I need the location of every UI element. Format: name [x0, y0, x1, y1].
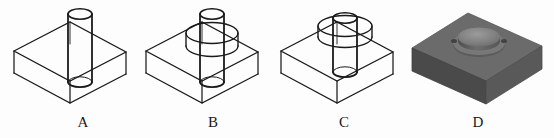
figure-a-label: A	[63, 114, 103, 131]
block-a-wireframe	[14, 22, 126, 103]
figure-a-drawing	[8, 0, 148, 115]
figure-b-label: B	[193, 114, 233, 131]
cylinder-c	[333, 13, 357, 77]
block-b-wireframe	[146, 22, 258, 103]
collar-c	[318, 16, 372, 48]
figure-panel: A	[0, 0, 554, 138]
figure-d-label: D	[458, 114, 498, 131]
block-d-solid	[412, 13, 542, 104]
figure-d-drawing	[408, 0, 554, 115]
figure-c-drawing	[275, 0, 415, 115]
figure-c-label: C	[324, 114, 364, 131]
block-c-wireframe	[281, 22, 393, 103]
figure-b-drawing	[140, 0, 280, 115]
